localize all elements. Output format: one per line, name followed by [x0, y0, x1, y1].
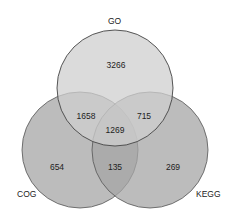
value-cog-kegg: 135: [108, 162, 122, 172]
venn-circles: [22, 30, 208, 208]
venn-diagram: GO COG KEGG 3266 1658 715 1269 654 135 2…: [0, 0, 236, 223]
label-cog: COG: [17, 189, 36, 199]
value-go-cog: 1658: [77, 111, 96, 121]
value-go-kegg: 715: [137, 111, 151, 121]
value-all: 1269: [106, 125, 125, 135]
label-kegg: KEGG: [196, 189, 221, 199]
value-go-only: 3266: [107, 60, 126, 70]
label-go: GO: [108, 16, 122, 26]
value-cog-only: 654: [50, 162, 64, 172]
value-kegg-only: 269: [166, 162, 180, 172]
